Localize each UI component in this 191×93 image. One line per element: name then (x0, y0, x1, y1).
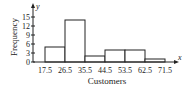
y-tick-label: 15 (22, 13, 30, 22)
x-tick-labels: 17.526.535.544.553.562.571.5 (38, 66, 172, 75)
y-axis-label: Frequency (9, 18, 19, 56)
x-tick-label: 44.5 (98, 66, 112, 75)
x-tick-label: 53.5 (118, 66, 132, 75)
x-tick-label: 17.5 (38, 66, 52, 75)
histogram-chart: y x 03691215 17.526.535.544.553.562.571.… (0, 0, 191, 93)
x-tick-label: 26.5 (58, 66, 72, 75)
x-tick-label: 35.5 (78, 66, 92, 75)
y-tick-label: 6 (26, 40, 30, 49)
y-tick-label: 12 (22, 22, 30, 31)
y-tick-label: 9 (26, 31, 30, 40)
y-tick-label: 3 (26, 49, 30, 58)
histogram-bars (45, 20, 165, 62)
histogram-bar (85, 56, 105, 62)
histogram-bar (105, 50, 125, 62)
y-axis-arrow-icon (31, 3, 35, 8)
y-axis-symbol: y (35, 2, 40, 11)
histogram-bar (125, 50, 145, 62)
x-axis-label: Customers (88, 76, 127, 86)
x-tick-label: 71.5 (158, 66, 172, 75)
histogram-bar (45, 47, 65, 62)
x-tick-label: 62.5 (138, 66, 152, 75)
histogram-bar (65, 20, 85, 62)
y-tick-label: 0 (26, 58, 30, 67)
x-axis-symbol: x (177, 53, 182, 62)
